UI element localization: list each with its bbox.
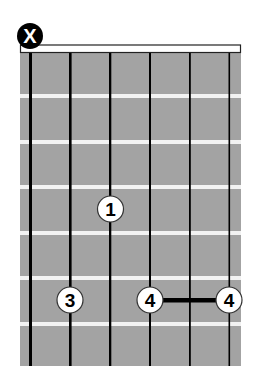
chord-diagram: X 1 3 4 4 bbox=[0, 0, 255, 391]
fret-line bbox=[20, 231, 241, 235]
fret-line bbox=[20, 185, 241, 189]
fret-line bbox=[20, 322, 241, 326]
string-5 bbox=[189, 52, 191, 366]
finger-dot: 1 bbox=[98, 196, 124, 222]
fret-line bbox=[20, 94, 241, 98]
finger-dot: 4 bbox=[137, 287, 163, 313]
finger-label: 4 bbox=[145, 290, 156, 311]
fret-line bbox=[20, 276, 241, 280]
finger-dot: 3 bbox=[57, 287, 83, 313]
string-4 bbox=[149, 52, 151, 366]
string-1 bbox=[29, 52, 32, 366]
nut bbox=[21, 45, 241, 53]
finger-label: 1 bbox=[105, 199, 116, 220]
finger-label: 4 bbox=[224, 290, 235, 311]
fretboard bbox=[20, 52, 241, 366]
finger-dot: 4 bbox=[216, 287, 242, 313]
string-6 bbox=[229, 52, 231, 366]
finger-label: 3 bbox=[65, 290, 76, 311]
muted-label: X bbox=[23, 25, 37, 47]
muted-string-marker: X bbox=[17, 23, 43, 49]
fret-line bbox=[20, 140, 241, 144]
string-2 bbox=[69, 52, 72, 366]
